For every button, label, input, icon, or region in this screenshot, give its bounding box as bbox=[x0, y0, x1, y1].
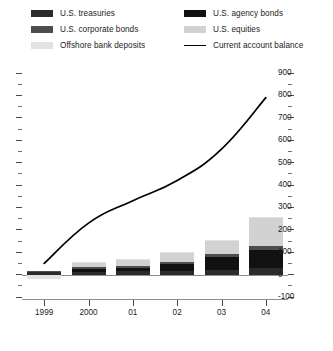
x-tick-04 bbox=[266, 300, 267, 306]
bar-segment-04-offshore-bank-deposits bbox=[249, 217, 283, 218]
x-axis-label-1999: 1999 bbox=[35, 308, 53, 317]
y-tick-left-800 bbox=[16, 95, 22, 96]
bar-segment-03-u-s-equities bbox=[205, 241, 239, 254]
y-tick-left-400 bbox=[16, 185, 22, 186]
chart-legend: U.S. treasuries U.S. corporate bonds Off… bbox=[0, 6, 333, 52]
y-tick-right-350 bbox=[288, 196, 292, 197]
x-tick-02 bbox=[177, 300, 178, 306]
bar-03 bbox=[205, 52, 239, 318]
bar-segment-03-u-s-treasuries bbox=[205, 270, 239, 275]
y-tick-left--50 bbox=[18, 285, 22, 286]
x-axis-label-04: 04 bbox=[261, 308, 270, 317]
y-tick-right-250 bbox=[288, 218, 292, 219]
legend-item-current-account-balance: Current account balance bbox=[184, 38, 303, 52]
legend-swatch-us-corporate-bonds bbox=[31, 26, 53, 33]
bar-segment-02-u-s-treasuries bbox=[160, 271, 194, 275]
legend-label-us-agency-bonds: U.S. agency bonds bbox=[213, 9, 283, 18]
y-tick-left-500 bbox=[16, 162, 22, 163]
legend-column-left: U.S. treasuries U.S. corporate bonds Off… bbox=[31, 6, 145, 54]
x-tick-2000 bbox=[89, 300, 90, 306]
bar-segment-2000-u-s-agency-bonds bbox=[72, 269, 106, 272]
y-axis-label-600: 600 bbox=[278, 136, 292, 144]
y-axis-label-800: 800 bbox=[278, 91, 292, 99]
y-tick-left-150 bbox=[18, 241, 22, 242]
x-tick-03 bbox=[222, 300, 223, 306]
y-tick-left-900 bbox=[16, 73, 22, 74]
legend-swatch-current-account-balance bbox=[184, 45, 206, 46]
y-tick-right-50 bbox=[288, 263, 292, 264]
legend-label-current-account-balance: Current account balance bbox=[213, 41, 303, 50]
y-tick-right-550 bbox=[288, 151, 292, 152]
y-axis-label-500: 500 bbox=[278, 159, 292, 167]
bar-segment-01-u-s-corporate-bonds bbox=[116, 266, 150, 268]
bar-segment-2000-offshore-bank-deposits bbox=[72, 262, 106, 263]
y-tick-left-100 bbox=[16, 252, 22, 253]
bar-segment-01-u-s-treasuries bbox=[116, 271, 150, 274]
legend-item-offshore-bank-deposits: Offshore bank deposits bbox=[31, 38, 145, 52]
y-tick-left-700 bbox=[16, 117, 22, 118]
y-tick-left-350 bbox=[18, 196, 22, 197]
x-axis-label-2000: 2000 bbox=[79, 308, 97, 317]
bar-segment-03-u-s-agency-bonds bbox=[205, 257, 239, 270]
x-axis-label-03: 03 bbox=[217, 308, 226, 317]
legend-item-us-agency-bonds: U.S. agency bonds bbox=[184, 6, 303, 20]
bar-segment-01-offshore-bank-deposits bbox=[116, 259, 150, 260]
bar-segment-01-u-s-equities bbox=[116, 259, 150, 266]
legend-item-us-treasuries: U.S. treasuries bbox=[31, 6, 145, 20]
y-tick-right-450 bbox=[288, 173, 292, 174]
bar-1999 bbox=[27, 52, 61, 318]
y-axis-label-200: 200 bbox=[278, 226, 292, 234]
y-tick-left-200 bbox=[16, 229, 22, 230]
y-tick-right--50 bbox=[288, 285, 292, 286]
y-tick-left-600 bbox=[16, 140, 22, 141]
y-tick-left-450 bbox=[18, 173, 22, 174]
chart-figure: U.S. treasuries U.S. corporate bonds Off… bbox=[0, 0, 333, 351]
bar-segment-02-u-s-equities bbox=[160, 253, 194, 262]
legend-swatch-us-agency-bonds bbox=[184, 10, 206, 17]
bar-segment-1999-offshore-bank-deposits bbox=[27, 275, 61, 279]
y-tick-right-650 bbox=[288, 129, 292, 130]
y-tick-right-750 bbox=[288, 106, 292, 107]
y-tick-right-850 bbox=[288, 84, 292, 85]
legend-item-us-corporate-bonds: U.S. corporate bonds bbox=[31, 22, 145, 36]
y-tick-left-250 bbox=[18, 218, 22, 219]
bar-01 bbox=[116, 52, 150, 318]
legend-column-right: U.S. agency bonds U.S. equities Current … bbox=[184, 6, 303, 54]
bar-segment-1999-u-s-corporate-bonds bbox=[27, 271, 61, 272]
legend-swatch-us-treasuries bbox=[31, 10, 53, 17]
y-tick-left-550 bbox=[18, 151, 22, 152]
y-axis-label-100: 100 bbox=[278, 248, 292, 256]
y-tick-right-150 bbox=[288, 241, 292, 242]
legend-label-offshore-bank-deposits: Offshore bank deposits bbox=[60, 41, 145, 50]
y-tick-left-750 bbox=[18, 106, 22, 107]
x-axis-line bbox=[22, 299, 288, 300]
y-tick-left-650 bbox=[18, 129, 22, 130]
legend-label-us-corporate-bonds: U.S. corporate bonds bbox=[60, 25, 138, 34]
bar-segment-02-u-s-corporate-bonds bbox=[160, 262, 194, 264]
plot-inner bbox=[22, 52, 288, 318]
y-axis-label-neg100: -100 bbox=[278, 293, 294, 301]
bar-segment-03-u-s-corporate-bonds bbox=[205, 254, 239, 257]
bar-segment-03-offshore-bank-deposits bbox=[205, 240, 239, 241]
legend-label-us-equities: U.S. equities bbox=[213, 25, 260, 34]
x-tick-1999 bbox=[44, 300, 45, 306]
legend-item-us-equities: U.S. equities bbox=[184, 22, 303, 36]
bar-2000 bbox=[72, 52, 106, 318]
bar-02 bbox=[160, 52, 194, 318]
y-axis-label-0: 0 bbox=[278, 271, 283, 279]
y-tick-right-0 bbox=[288, 274, 294, 275]
x-axis-label-01: 01 bbox=[128, 308, 137, 317]
y-tick-left--100 bbox=[16, 297, 22, 298]
y-axis-label-900: 900 bbox=[278, 69, 292, 77]
bar-segment-2000-u-s-corporate-bonds bbox=[72, 267, 106, 268]
y-tick-left-850 bbox=[18, 84, 22, 85]
x-tick-01 bbox=[133, 300, 134, 306]
bar-segment-02-offshore-bank-deposits bbox=[160, 252, 194, 253]
legend-swatch-offshore-bank-deposits bbox=[31, 42, 53, 49]
bar-segment-01-u-s-agency-bonds bbox=[116, 268, 150, 272]
y-axis-label-400: 400 bbox=[278, 181, 292, 189]
y-tick-left-50 bbox=[18, 263, 22, 264]
y-tick-left-300 bbox=[16, 207, 22, 208]
y-axis-label-300: 300 bbox=[278, 203, 292, 211]
legend-label-us-treasuries: U.S. treasuries bbox=[60, 9, 115, 18]
